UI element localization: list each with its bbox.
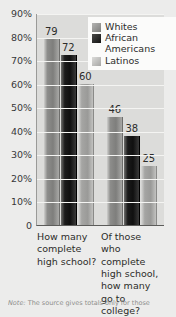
gridline bbox=[37, 155, 164, 156]
legend: Whites African Americans Latinos bbox=[88, 17, 176, 70]
gridline bbox=[37, 179, 164, 180]
footnote-prefix: Note: bbox=[8, 299, 26, 307]
legend-item-african-americans: African Americans bbox=[92, 32, 171, 54]
gridline bbox=[37, 108, 164, 109]
y-axis-tick-label: 90% bbox=[0, 9, 32, 19]
gridline bbox=[37, 14, 164, 15]
bar: 72 bbox=[61, 55, 77, 225]
legend-item-whites: Whites bbox=[92, 21, 171, 32]
legend-swatch-icon-latinos bbox=[92, 57, 101, 66]
gridline bbox=[37, 202, 164, 203]
bar-value-label: 60 bbox=[79, 72, 92, 82]
bar: 60 bbox=[78, 84, 94, 225]
bar-value-label: 79 bbox=[45, 27, 58, 37]
y-axis-tick-label: 20% bbox=[0, 174, 32, 184]
y-axis-tick-label: 10% bbox=[0, 198, 32, 208]
y-axis-tick-label: 60% bbox=[0, 80, 32, 90]
y-axis-tick-label: 40% bbox=[0, 127, 32, 137]
gridline bbox=[37, 85, 164, 86]
y-axis-tick-label: 80% bbox=[0, 33, 32, 43]
chart-footnote: Note: The source gives totals only for t… bbox=[8, 299, 168, 307]
y-axis-zero-label: 0 bbox=[0, 221, 32, 231]
legend-swatch-icon-african-americans bbox=[92, 34, 101, 43]
legend-label-latinos: Latinos bbox=[105, 55, 139, 66]
y-axis-tick-label: 70% bbox=[0, 56, 32, 66]
legend-swatch-icon-whites bbox=[92, 23, 101, 32]
gridline bbox=[37, 132, 164, 133]
bar: 38 bbox=[124, 136, 140, 226]
legend-label-african-americans: African Americans bbox=[105, 32, 171, 54]
y-axis-tick-label: 30% bbox=[0, 151, 32, 161]
y-axis-tick-label: 50% bbox=[0, 103, 32, 113]
legend-item-latinos: Latinos bbox=[92, 55, 171, 66]
bar-value-label: 72 bbox=[62, 43, 75, 53]
bar-value-label: 46 bbox=[108, 105, 121, 115]
footnote-text: The source gives totals only for those bbox=[28, 299, 150, 307]
bar: 25 bbox=[141, 166, 157, 225]
bar: 46 bbox=[107, 117, 123, 225]
legend-label-whites: Whites bbox=[105, 21, 138, 32]
